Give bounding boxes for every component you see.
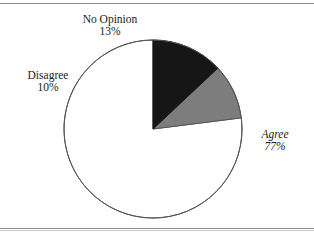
slice-label-disagree: Disagree 10% xyxy=(10,70,86,93)
pie-slice-group xyxy=(64,40,242,218)
bottom-horizontal-rule xyxy=(0,228,314,229)
slice-label-agree-name: Agree xyxy=(261,128,288,140)
slice-label-agree: Agree 77% xyxy=(248,129,302,152)
bottom-horizontal-rule-shadow xyxy=(0,230,314,231)
slice-label-agree-percent: 77% xyxy=(248,141,302,153)
slice-label-disagree-percent: 10% xyxy=(10,82,86,94)
pie-chart-figure: No Opinion 13% Disagree 10% Agree 77% xyxy=(0,0,314,241)
slice-label-no-opinion: No Opinion 13% xyxy=(58,14,162,37)
slice-label-disagree-name: Disagree xyxy=(28,69,69,81)
slice-label-no-opinion-name: No Opinion xyxy=(83,13,138,25)
slice-label-no-opinion-percent: 13% xyxy=(58,26,162,38)
